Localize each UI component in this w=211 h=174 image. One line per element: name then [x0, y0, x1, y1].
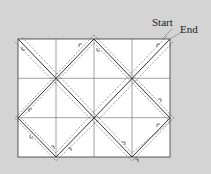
end-label: End — [180, 24, 198, 35]
start-label: Start — [152, 17, 173, 28]
start-leader-line — [163, 29, 172, 38]
